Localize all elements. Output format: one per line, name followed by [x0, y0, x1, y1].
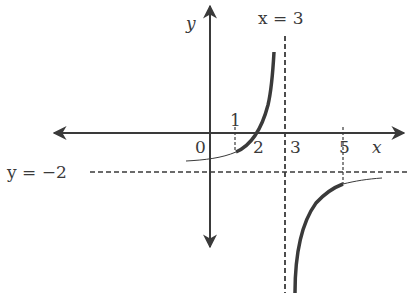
y-axis-label: y [185, 13, 196, 33]
x-axis-label: x [372, 137, 382, 157]
tick-1-label: 1 [230, 110, 241, 130]
function-graph: y x x = 3 y = −2 0 1 2 3 5 [0, 0, 410, 293]
tick-2-label: 2 [253, 137, 264, 157]
tick-5-label: 5 [339, 137, 350, 157]
vertical-asymptote-label: x = 3 [258, 8, 303, 28]
horizontal-asymptote-label: y = −2 [6, 162, 67, 182]
right-branch-thin [343, 178, 382, 184]
tick-3-label: 3 [290, 137, 301, 157]
right-branch-highlighted [295, 184, 343, 293]
origin-label: 0 [195, 137, 206, 157]
